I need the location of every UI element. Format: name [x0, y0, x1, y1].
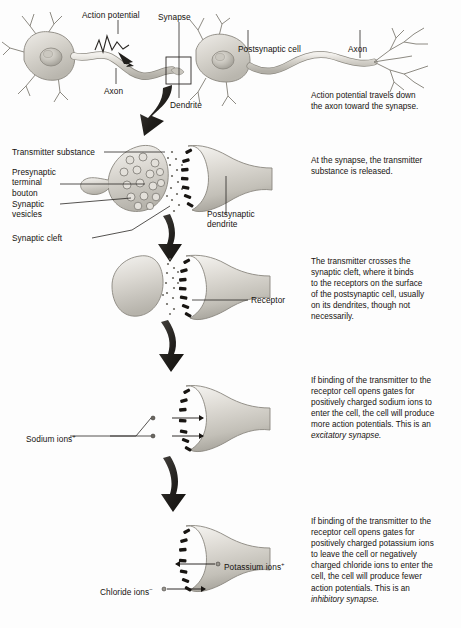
flow-arrow-4 — [161, 456, 186, 512]
label-postsynaptic-cell: Postsynaptic cell — [238, 44, 301, 54]
action-potential-waveform — [95, 36, 129, 52]
sodium-ion-leaders — [70, 416, 155, 438]
caption-panel-4-emphasis: excitatory synapse. — [311, 431, 381, 440]
panel-4-artwork — [70, 385, 270, 451]
label-sodium-ions-text: Sodium ions — [26, 434, 72, 444]
label-chloride-ions: Chloride ions− — [100, 584, 153, 597]
receptor-sites-5 — [179, 528, 192, 592]
receptor-sites-4 — [179, 388, 192, 452]
right-terminal-arbor — [374, 28, 428, 92]
flow-arrow-2 — [158, 214, 182, 262]
flow-arrow-3 — [159, 320, 184, 372]
caption-panel-3: The transmitter crosses the synaptic cle… — [311, 256, 461, 323]
postsynaptic-dendrite-3 — [186, 255, 270, 319]
receptor-sites-3 — [179, 258, 192, 318]
right-neuron-nucleus — [212, 51, 234, 69]
presynaptic-bouton — [108, 145, 168, 211]
transmitter-crossing-group — [162, 258, 179, 315]
label-postsynaptic-dendrite: Postsynaptic dendrite — [207, 209, 255, 230]
caption-panel-1: Action potential travels down the axon t… — [311, 90, 457, 112]
panel-3-artwork — [112, 255, 270, 319]
label-synaptic-vesicles: Synaptic vesicles — [12, 199, 44, 220]
label-chloride-ions-text: Chloride ions — [100, 587, 149, 597]
caption-panel-5-text: If binding of the transmitter to the rec… — [311, 517, 434, 593]
bouton-stalk — [81, 178, 109, 195]
transmitter-molecules-group — [166, 151, 183, 212]
label-potassium-ions-text: Potassium ions — [224, 562, 281, 572]
caption-panel-5-emphasis: inhibitory synapse. — [311, 595, 379, 604]
caption-panel-2: At the synapse, the transmitter substanc… — [311, 155, 457, 177]
presynaptic-bouton-3 — [112, 256, 163, 316]
label-presynaptic-terminal-bouton: Presynaptic terminal bouton — [12, 167, 56, 198]
caption-panel-4-text: If binding of the transmitter to the rec… — [311, 376, 434, 429]
label-sodium-ions-charge: + — [72, 433, 76, 439]
sodium-influx-arrows — [172, 415, 204, 439]
label-chloride-ions-charge: − — [149, 586, 153, 592]
label-action-potential: Action potential — [82, 10, 140, 20]
caption-panel-4: If binding of the transmitter to the rec… — [311, 375, 461, 442]
synapse-diagram-figure: Action potential Synapse Postsynaptic ce… — [0, 0, 461, 628]
label-transmitter-substance: Transmitter substance — [12, 147, 95, 157]
label-axon-right: Axon — [348, 44, 367, 54]
label-axon-left: Axon — [104, 86, 123, 96]
postsynaptic-dendrite-4 — [186, 385, 270, 451]
label-synaptic-cleft: Synaptic cleft — [12, 233, 62, 243]
label-receptor: Receptor — [251, 295, 285, 305]
label-potassium-ions-charge: + — [281, 561, 285, 567]
receptor-sites-2 — [181, 148, 194, 208]
left-neuron-nucleus — [40, 48, 62, 66]
label-synapse: Synapse — [158, 12, 191, 22]
postsynaptic-dendrite-2 — [188, 145, 272, 211]
flow-arrow-1 — [140, 85, 172, 136]
caption-panel-5: If binding of the transmitter to the rec… — [311, 516, 461, 605]
label-potassium-ions: Potassium ions+ — [224, 559, 285, 572]
label-dendrite: Dendrite — [170, 100, 202, 110]
label-sodium-ions: Sodium ions+ — [26, 431, 76, 444]
